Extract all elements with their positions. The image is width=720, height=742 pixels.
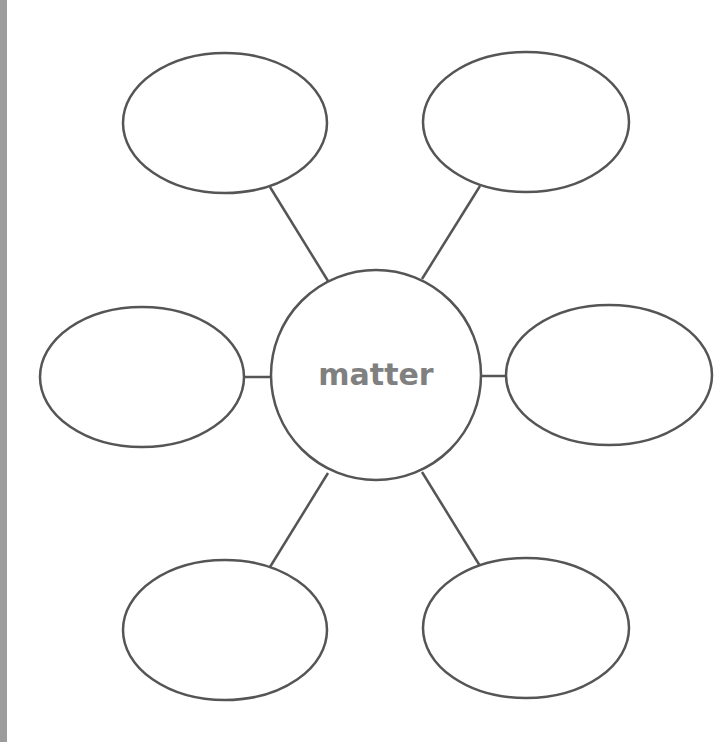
center-label: matter [318, 357, 434, 392]
bubble-ellipse [40, 307, 244, 447]
bubble-ellipse [506, 305, 712, 445]
connector-top-right [422, 186, 480, 279]
bubble-ellipse [123, 53, 327, 193]
bubble-bottom-left [123, 560, 327, 700]
connector-bottom-left [270, 473, 328, 567]
connector-bottom-right [422, 472, 480, 566]
center-node: matter [271, 270, 481, 480]
bubble-bottom-right [423, 558, 629, 698]
bubble-top-left [123, 53, 327, 193]
bubble-right [506, 305, 712, 445]
connector-top-left [270, 187, 328, 281]
bubble-ellipse [423, 52, 629, 192]
bubble-left [40, 307, 244, 447]
bubble-ellipse [123, 560, 327, 700]
bubble-ellipse [423, 558, 629, 698]
bubble-top-right [423, 52, 629, 192]
bubble-map-canvas: matter [0, 0, 720, 742]
